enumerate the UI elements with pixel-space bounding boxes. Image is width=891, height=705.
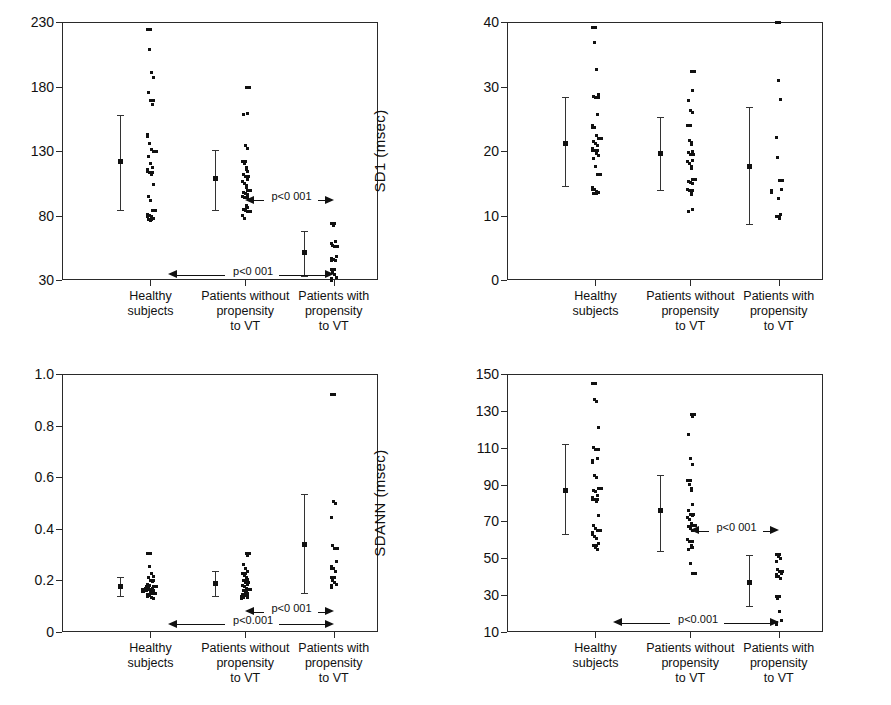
scatter-point (596, 494, 599, 497)
significance-line-left (177, 275, 225, 276)
arrow-right-icon (325, 620, 334, 628)
scatter-point (152, 575, 155, 578)
chart-panel-sdann: SDANN (msec)1030507090110130150Healthysu… (445, 352, 891, 705)
arrow-right-icon (770, 618, 779, 626)
x-category-line: Patients with (272, 289, 396, 304)
scatter-point (691, 182, 694, 185)
scatter-point (777, 79, 780, 82)
scatter-point (591, 459, 594, 464)
error-bar-cap (301, 593, 308, 594)
y-tick-label: 0 (455, 273, 499, 287)
x-tick (334, 632, 335, 638)
scatter-point (242, 596, 245, 599)
scatter-point (334, 502, 337, 505)
significance-annotation: p<0 001 (690, 524, 778, 538)
scatter-point (686, 124, 692, 127)
y-tick (501, 22, 507, 23)
mean-marker (213, 581, 218, 586)
scatter-point (330, 584, 333, 589)
scatter-point (245, 86, 251, 89)
scatter-point (689, 562, 692, 565)
scatter-point (246, 178, 249, 181)
scatter-point (152, 76, 155, 79)
y-tick-label: 30 (10, 273, 54, 287)
arrow-left-icon (245, 196, 254, 204)
p-value-label: p<0 001 (711, 522, 763, 533)
arrow-left-icon (613, 618, 622, 626)
significance-line-left (254, 200, 263, 201)
y-tick (501, 374, 507, 375)
y-tick-label: 40 (455, 15, 499, 29)
scatter-point (775, 560, 778, 563)
scatter-point (689, 457, 692, 460)
plot-frame (507, 22, 823, 280)
scatter-point (596, 173, 602, 176)
scatter-point (775, 21, 781, 24)
scatter-point (151, 592, 157, 595)
scatter-point (687, 548, 690, 551)
scatter-point (246, 554, 249, 557)
y-tick-label: 0.8 (10, 419, 54, 433)
x-category-label-2: Patients withpropensityto VT (272, 289, 396, 334)
scatter-point (777, 197, 780, 200)
error-bar-cap (212, 210, 219, 211)
scatter-point (688, 483, 691, 486)
error-bar-cap (657, 117, 664, 118)
y-tick-label: 0 (10, 625, 54, 639)
scatter-point (242, 113, 245, 116)
arrow-right-icon (325, 196, 334, 204)
error-bar-cap (746, 555, 753, 556)
mean-marker (658, 151, 663, 156)
scatter-point (335, 276, 338, 279)
scatter-point (149, 199, 152, 202)
scatter-point (690, 141, 693, 146)
error-bar-cap (117, 596, 124, 597)
scatter-point (152, 150, 158, 153)
y-tick (56, 216, 62, 217)
error-bar-cap (746, 224, 753, 225)
scatter-point (142, 590, 145, 593)
scatter-point (691, 514, 694, 517)
y-tick-label: 0.6 (10, 470, 54, 484)
x-tick (779, 280, 780, 286)
error-bar-cap (117, 210, 124, 211)
scatter-point (596, 457, 599, 460)
arrow-left-icon (690, 526, 699, 534)
scatter-point (334, 240, 337, 243)
error-bar-cap (562, 534, 569, 535)
error-bar-cap (117, 577, 124, 578)
y-tick-label: 80 (10, 209, 54, 223)
scatter-point (595, 68, 598, 71)
scatter-point (691, 89, 694, 92)
scatter-point (595, 476, 598, 479)
scatter-point (147, 155, 150, 158)
y-tick-label: 70 (455, 514, 499, 528)
y-tick (501, 485, 507, 486)
significance-line-right (277, 624, 325, 625)
scatter-point (690, 487, 693, 492)
scatter-point (594, 448, 600, 451)
x-tick (245, 632, 246, 638)
scatter-point (780, 188, 783, 191)
error-bar-cap (562, 97, 569, 98)
x-tick (595, 280, 596, 286)
mean-marker (118, 159, 123, 164)
y-axis-title: SD1 (msec) (371, 51, 388, 251)
mean-marker (302, 542, 307, 547)
y-tick (56, 87, 62, 88)
error-bar-cap (562, 186, 569, 187)
scatter-point (691, 111, 694, 114)
scatter-point (246, 588, 252, 591)
y-tick-label: 10 (455, 209, 499, 223)
error-bar-cap (657, 190, 664, 191)
scatter-point (597, 487, 603, 490)
scatter-point (691, 503, 694, 506)
y-tick (501, 521, 507, 522)
error-bar-cap (562, 444, 569, 445)
y-tick (56, 426, 62, 427)
scatter-point (690, 191, 693, 196)
scatter-point (780, 619, 783, 622)
error-bar-cap (657, 551, 664, 552)
y-tick (56, 529, 62, 530)
y-tick (501, 151, 507, 152)
